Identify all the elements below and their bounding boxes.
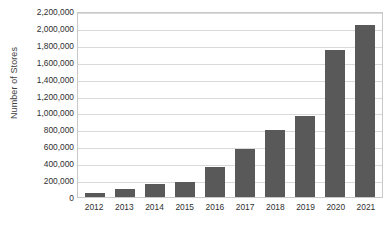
x-axis-tick-label: 2015 [170,200,200,216]
y-axis-tick-label: 1,400,000 [16,75,74,85]
bar-2016[interactable] [205,167,225,197]
x-axis-tick-label: 2020 [321,200,351,216]
x-axis-tick-label: 2019 [290,200,320,216]
bar-2021[interactable] [355,25,375,197]
y-axis-tick-label: 1,800,000 [16,41,74,51]
x-axis-tick-label: 2021 [351,200,381,216]
y-axis-tick-labels: 2,200,0002,000,0001,800,0001,600,0001,40… [16,7,74,203]
bar-slot [140,13,170,197]
bar-slot [200,13,230,197]
bar-2012[interactable] [85,193,105,197]
bar-2014[interactable] [145,184,165,197]
bar-slot [260,13,290,197]
bar-2017[interactable] [235,149,255,197]
x-axis-tick-label: 2018 [260,200,290,216]
bar-slot [110,13,140,197]
bar-2015[interactable] [175,182,195,197]
bar-slot [320,13,350,197]
x-axis-tick-label: 2016 [200,200,230,216]
bar-slot [170,13,200,197]
y-axis-tick-label: 400,000 [16,159,74,169]
bar-2019[interactable] [295,116,315,197]
bar-slot [80,13,110,197]
bar-2020[interactable] [325,50,345,197]
y-axis-tick-label: 1,200,000 [16,92,74,102]
y-axis-tick-label: 200,000 [16,176,74,186]
y-axis-tick-label: 600,000 [16,142,74,152]
x-axis-tick-label: 2012 [79,200,109,216]
y-axis-tick-label: 800,000 [16,125,74,135]
x-axis-tick-label: 2017 [230,200,260,216]
y-axis-tick-label: 2,200,000 [16,7,74,17]
x-axis-tick-label: 2013 [109,200,139,216]
plot-area [77,12,383,198]
bar-2013[interactable] [115,189,135,197]
bar-chart: Number of Stores 2,200,0002,000,0001,800… [0,0,389,229]
y-axis-tick-label: 2,000,000 [16,24,74,34]
y-axis-tick-label: 0 [16,193,74,203]
x-axis-tick-label: 2014 [139,200,169,216]
bar-2018[interactable] [265,130,285,197]
y-axis-tick-label: 1,000,000 [16,108,74,118]
bar-slot [350,13,380,197]
bars-layer [78,13,382,197]
y-axis-tick-label: 1,600,000 [16,58,74,68]
bar-slot [290,13,320,197]
bar-slot [230,13,260,197]
x-axis-tick-labels: 2012201320142015201620172018201920202021 [77,200,383,216]
